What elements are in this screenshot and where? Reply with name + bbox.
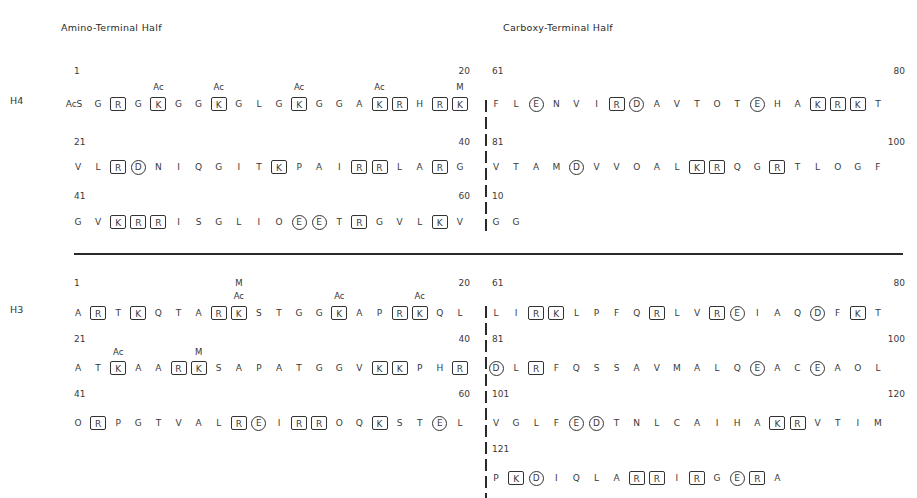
residue-number-start: 21: [74, 137, 85, 147]
residue: G: [211, 215, 227, 229]
boxed-residue: K: [191, 361, 207, 375]
acetylation-mark: Ac: [209, 82, 229, 92]
residue: N: [629, 416, 645, 430]
methylation-mark: M: [189, 347, 209, 357]
residue: L: [709, 361, 725, 375]
boxed-residue: R: [830, 97, 846, 111]
residue: I: [171, 215, 187, 229]
residue-number-end: 120: [875, 389, 905, 399]
residue: Q: [432, 306, 448, 320]
residue: G: [331, 361, 347, 375]
residue: F: [548, 416, 564, 430]
acetylation-mark: Ac: [229, 291, 249, 301]
residue: Q: [568, 361, 584, 375]
residue: V: [488, 416, 504, 430]
residue: V: [70, 160, 86, 174]
boxed-residue: K: [412, 306, 428, 320]
boxed-residue: R: [649, 471, 665, 485]
residue: I: [548, 471, 564, 485]
boxed-residue: K: [271, 160, 287, 174]
residue: V: [589, 160, 605, 174]
residue: A: [191, 416, 207, 430]
circled-residue: D: [529, 471, 544, 486]
boxed-residue: K: [372, 416, 388, 430]
residue: H: [432, 361, 448, 375]
boxed-residue: K: [291, 97, 307, 111]
circled-residue: E: [810, 361, 825, 376]
residue: A: [689, 416, 705, 430]
residue: L: [508, 361, 524, 375]
residue: I: [850, 416, 866, 430]
residue: S: [589, 361, 605, 375]
residue: T: [609, 416, 625, 430]
residue: V: [452, 215, 468, 229]
residue: A: [412, 160, 428, 174]
residue: Q: [790, 306, 806, 320]
boxed-residue: R: [110, 160, 126, 174]
residue-number-start: 10: [492, 191, 503, 201]
residue-number-start: 61: [492, 66, 503, 76]
residue: A: [609, 471, 625, 485]
residue: I: [171, 160, 187, 174]
residue: F: [609, 306, 625, 320]
boxed-residue: K: [850, 97, 866, 111]
boxed-residue: R: [130, 215, 146, 229]
residue: A: [689, 361, 705, 375]
histone-label-h4: H4: [10, 95, 23, 106]
residue: G: [271, 97, 287, 111]
residue: T: [271, 306, 287, 320]
residue: P: [488, 471, 504, 485]
residue-number-start: 121: [492, 444, 509, 454]
methylation-mark: M: [450, 82, 470, 92]
circled-residue: D: [569, 160, 584, 175]
residue: Q: [191, 160, 207, 174]
residue: A: [649, 97, 665, 111]
boxed-residue: K: [548, 306, 564, 320]
residue: C: [790, 361, 806, 375]
residue: A: [629, 361, 645, 375]
residue: G: [311, 97, 327, 111]
boxed-residue: R: [150, 215, 166, 229]
circled-residue: E: [529, 97, 544, 112]
histone-divider: [74, 253, 903, 255]
residue-number-end: 60: [440, 191, 470, 201]
residue: A: [70, 306, 86, 320]
residue: O: [830, 160, 846, 174]
boxed-residue: R: [709, 306, 725, 320]
boxed-residue: R: [171, 361, 187, 375]
residue-number-end: 100: [875, 137, 905, 147]
residue: T: [90, 361, 106, 375]
residue: Q: [729, 361, 745, 375]
residue: L: [649, 416, 665, 430]
methylation-mark: M: [229, 278, 249, 288]
amino-terminal-title: Amino-Terminal Half: [61, 22, 162, 33]
residue: G: [291, 306, 307, 320]
residue: V: [649, 361, 665, 375]
residue: V: [351, 361, 367, 375]
boxed-residue: K: [372, 97, 388, 111]
residue: S: [211, 361, 227, 375]
acetylation-mark: Ac: [410, 291, 430, 301]
residue: Q: [568, 471, 584, 485]
boxed-residue: R: [769, 160, 785, 174]
residue: G: [709, 471, 725, 485]
residue: A: [351, 306, 367, 320]
boxed-residue: R: [629, 471, 645, 485]
circled-residue: E: [730, 471, 745, 486]
residue: G: [850, 160, 866, 174]
residue: T: [251, 160, 267, 174]
residue-number-start: 41: [74, 191, 85, 201]
residue: A: [191, 306, 207, 320]
boxed-residue: K: [392, 361, 408, 375]
boxed-residue: R: [649, 306, 665, 320]
boxed-residue: K: [110, 361, 126, 375]
residue: P: [412, 361, 428, 375]
residue: T: [110, 306, 126, 320]
residue: I: [709, 416, 725, 430]
residue: G: [508, 416, 524, 430]
residue: G: [231, 97, 247, 111]
residue: T: [171, 306, 187, 320]
residue: G: [130, 97, 146, 111]
residue: P: [251, 361, 267, 375]
boxed-residue: R: [709, 160, 725, 174]
